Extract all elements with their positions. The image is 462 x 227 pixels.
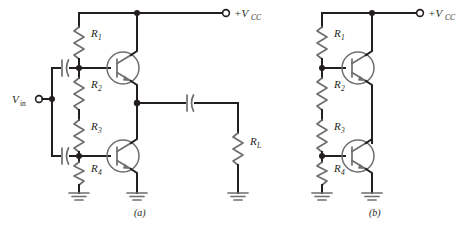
supply-label-b: +V	[428, 7, 443, 19]
wire-q2-collector-b	[366, 103, 372, 143]
resistor-r4-b	[317, 162, 327, 185]
label-r3-sub-b: 3	[340, 126, 345, 135]
transistor-q2-a	[107, 140, 139, 172]
resistor-rl-a	[233, 133, 243, 165]
resistor-r1-a	[74, 27, 84, 59]
label-r2-sub-b: 2	[341, 84, 345, 93]
circuit-a: +V CC R 1 R 2 R 3	[12, 7, 262, 219]
circuit-b: +V CC R 1 R 2 R 3	[312, 7, 456, 219]
input-label-a: V	[12, 93, 20, 105]
caption-b: (b)	[369, 207, 381, 219]
transistor-q1-b	[342, 52, 374, 84]
resistor-r2-b	[317, 78, 327, 110]
label-r4-a: R	[90, 162, 98, 174]
wire-q2-emitter-a	[131, 169, 137, 193]
resistor-r3-a	[74, 120, 84, 152]
ground-q2-emitter-b	[362, 193, 382, 200]
supply-label-sub-a: CC	[251, 13, 262, 22]
supply-terminal-a[interactable]	[223, 10, 230, 17]
label-r2-a: R	[90, 78, 98, 90]
circuit-diagram: +V CC R 1 R 2 R 3	[0, 0, 462, 227]
resistor-r3-b	[317, 120, 327, 152]
supply-label-a: +V	[234, 7, 249, 19]
label-r1-sub-a: 1	[98, 33, 102, 42]
transistor-q1-a	[107, 52, 139, 84]
wire-q1-emitter-a	[131, 81, 137, 103]
label-rl-a: R	[249, 135, 257, 147]
label-r3-a: R	[90, 120, 98, 132]
wire-q2-emitter-b	[366, 169, 372, 193]
label-r3-sub-a: 3	[97, 126, 102, 135]
transistor-q2-b	[342, 140, 374, 172]
ground-r4-b	[312, 193, 332, 200]
capacitor-input-lower-a	[62, 148, 69, 164]
wire-q1-collector-b	[366, 13, 372, 55]
capacitor-input-upper-a	[62, 60, 69, 76]
input-label-sub-a: in	[20, 99, 26, 108]
label-r1-a: R	[90, 27, 98, 39]
ground-q2-emitter-a	[127, 193, 147, 200]
wire-q2-collector-a	[131, 103, 137, 143]
supply-label-sub-b: CC	[445, 13, 456, 22]
caption-a: (a)	[134, 207, 146, 219]
resistor-r4-a	[74, 162, 84, 185]
resistor-r2-a	[74, 78, 84, 110]
figure-container: +V CC R 1 R 2 R 3	[0, 0, 462, 227]
ground-rl-a	[228, 193, 248, 200]
label-r1-b: R	[333, 27, 341, 39]
capacitor-output-a	[187, 95, 194, 111]
ground-r4-a	[69, 193, 89, 200]
label-r3-b: R	[333, 120, 341, 132]
label-r4-sub-b: 4	[341, 168, 345, 177]
label-r4-b: R	[333, 162, 341, 174]
label-rl-sub-a: L	[256, 141, 261, 150]
label-r2-sub-a: 2	[98, 84, 102, 93]
label-r1-sub-b: 1	[341, 33, 345, 42]
wire-q1-collector-a	[131, 13, 137, 55]
label-r4-sub-a: 4	[98, 168, 102, 177]
supply-terminal-b[interactable]	[417, 10, 424, 17]
resistor-r1-b	[317, 27, 327, 59]
label-r2-b: R	[333, 78, 341, 90]
input-terminal-a[interactable]	[36, 96, 43, 103]
